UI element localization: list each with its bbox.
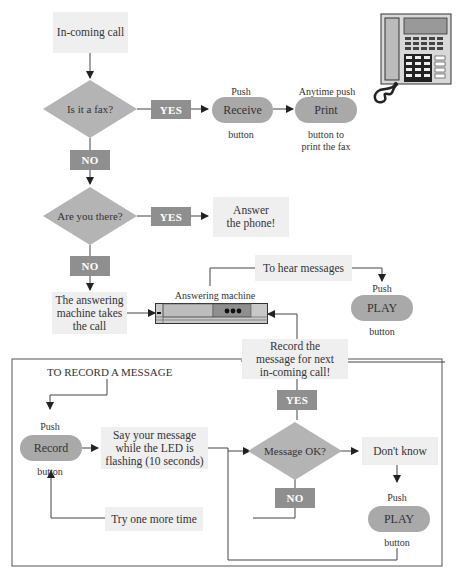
- receive-button[interactable]: Receive: [212, 97, 273, 123]
- print-button[interactable]: Print: [295, 97, 357, 123]
- yes-tag: YES: [151, 100, 191, 119]
- are-you-there-label: Are you there?: [43, 207, 137, 225]
- message-ok-label: Message OK?: [250, 442, 340, 460]
- machine-takes-call-box: The answeringmachine takesthe call: [52, 292, 127, 334]
- play-button[interactable]: PLAY: [351, 295, 413, 321]
- record-push-label: Push: [30, 421, 70, 433]
- no-tag: NO: [70, 150, 110, 170]
- print-caption: button toprint the fax: [290, 129, 362, 153]
- incoming-call-text: In-coming call: [57, 26, 124, 38]
- to-hear-messages-box: To hear messages: [255, 255, 352, 281]
- play-push-label: Push: [352, 283, 412, 295]
- record-next-box: Record themessage for nextin-coming call…: [242, 339, 348, 379]
- play-button-2[interactable]: PLAY: [368, 506, 430, 532]
- answer-phone-box: Answerthe phone!: [213, 197, 289, 237]
- is-fax-label: Is it a fax?: [43, 100, 137, 118]
- say-message-box: Say your messagewhile the LED isflashing…: [101, 427, 208, 469]
- play-caption: button: [352, 326, 412, 338]
- yes-tag-3: YES: [277, 390, 317, 410]
- answering-machine-label: Answering machine: [160, 290, 270, 302]
- incoming-call-box: In-coming call: [53, 12, 128, 53]
- record-button[interactable]: Record: [20, 435, 82, 461]
- no-tag-3: NO: [275, 488, 315, 508]
- play-push-label-2: Push: [377, 492, 417, 504]
- telephone-icon: [372, 12, 454, 104]
- no-tag-2: NO: [70, 256, 110, 276]
- dont-know-box: Don't know: [362, 437, 438, 465]
- record-caption: button: [30, 466, 70, 478]
- record-section-title: TO RECORD A MESSAGE: [47, 366, 177, 378]
- receive-caption: button: [210, 129, 272, 141]
- yes-tag-2: YES: [151, 207, 191, 226]
- play-caption-2: button: [377, 537, 417, 549]
- try-again-box: Try one more time: [105, 507, 203, 531]
- answering-machine-icon: [155, 303, 268, 325]
